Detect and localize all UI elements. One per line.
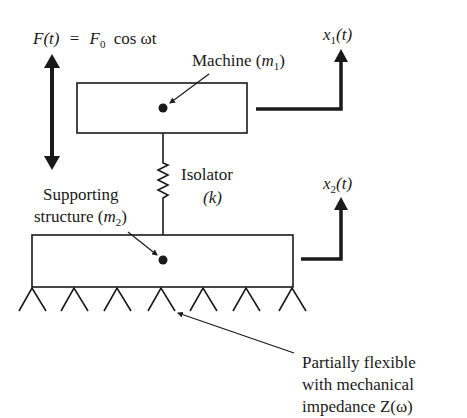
foundation-label-line3: impedance Z(ω) [302,397,413,416]
force-double-arrow-icon [44,54,60,170]
support-label-line2: structure (m2) [34,207,127,228]
flexible-foundation-icon [19,288,306,311]
x1-argument: (t) [336,25,352,44]
machine-label: Machine (m1) [192,51,285,72]
isolator-label: Isolator [181,165,233,184]
force-label: F(t) = F0 cos ωt [32,29,157,52]
displacement-x1-label: x1(t) [322,25,352,46]
support-close-paren: ) [121,207,127,226]
amplitude-subscript: 0 [100,38,106,50]
support-text: structure ( [34,207,104,226]
machine-mass-symbol: m [261,51,273,70]
isolator-spring-icon [158,133,168,235]
isolator-stiffness-label: (k) [203,188,222,207]
displacement-x2-arrow-icon [301,197,348,259]
machine-pointer-line [170,74,209,103]
support-label-line1: Supporting [43,185,119,204]
machine-text: Machine ( [192,51,262,70]
displacement-x2-label: x2(t) [322,174,352,195]
cosine-term: cos ωt [114,29,157,48]
force-symbol: F(t) [32,29,60,48]
equals-sign: = [70,29,80,48]
machine-center-dot-icon [159,104,168,113]
isolation-diagram: F(t) = F0 cos ωt Machine (m1) x1(t) Isol… [0,0,467,418]
machine-close-paren: ) [279,51,285,70]
foundation-label-line1: Partially flexible [302,353,416,372]
amplitude-symbol: F [89,29,101,48]
support-center-dot-icon [159,256,168,265]
support-mass-symbol: m [103,207,115,226]
x2-argument: (t) [336,174,352,193]
foundation-label-line2: with mechanical [302,375,414,394]
foundation-pointer-line [178,313,294,353]
